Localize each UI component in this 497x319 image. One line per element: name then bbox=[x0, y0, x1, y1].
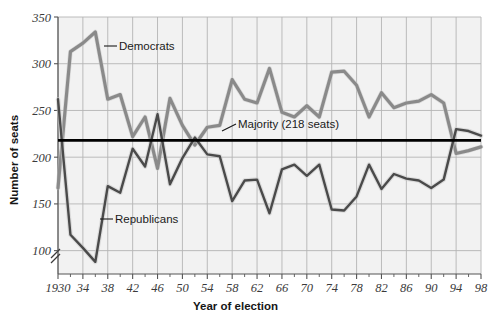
x-tick-label: 94 bbox=[450, 281, 463, 295]
republicans-label: Republicans bbox=[115, 213, 179, 225]
x-tick-label: 58 bbox=[226, 281, 239, 295]
y-tick-label: 300 bbox=[31, 57, 52, 71]
y-axis-tick-labels: 100150200250300350 bbox=[31, 11, 52, 259]
chart-container: 100150200250300350 193034384246505458626… bbox=[0, 0, 497, 319]
x-tick-label: 82 bbox=[375, 281, 388, 295]
x-axis-tick-labels: 19303438424650545862667074788286909498 bbox=[46, 281, 489, 295]
y-tick-label: 350 bbox=[31, 11, 52, 25]
democrats-label: Democrats bbox=[119, 40, 175, 52]
y-tick-label: 250 bbox=[32, 104, 52, 118]
y-tick-label: 200 bbox=[32, 151, 52, 165]
x-tick-label: 38 bbox=[101, 281, 115, 295]
x-tick-label: 62 bbox=[251, 281, 264, 295]
x-axis-ticks bbox=[58, 274, 481, 279]
x-tick-label: 42 bbox=[126, 281, 139, 295]
y-tick-label: 100 bbox=[32, 244, 52, 258]
x-tick-label: 34 bbox=[76, 281, 90, 295]
x-tick-label: 90 bbox=[425, 281, 438, 295]
x-tick-label: 66 bbox=[276, 281, 289, 295]
x-tick-label: 50 bbox=[176, 281, 189, 295]
x-tick-label: 98 bbox=[475, 281, 488, 295]
x-tick-label: 1930 bbox=[46, 281, 72, 295]
majority-label: Majority (218 seats) bbox=[238, 118, 339, 130]
x-tick-label: 54 bbox=[201, 281, 214, 295]
x-tick-label: 74 bbox=[325, 281, 338, 295]
x-axis-title: Year of election bbox=[193, 300, 278, 312]
x-tick-label: 46 bbox=[151, 281, 164, 295]
y-tick-label: 150 bbox=[32, 197, 52, 211]
x-tick-label: 78 bbox=[350, 281, 363, 295]
x-tick-label: 70 bbox=[301, 281, 314, 295]
x-tick-label: 86 bbox=[400, 281, 413, 295]
y-axis-title: Number of seats bbox=[8, 115, 20, 205]
house-seats-line-chart: 100150200250300350 193034384246505458626… bbox=[0, 0, 497, 319]
plot-background bbox=[58, 17, 481, 274]
